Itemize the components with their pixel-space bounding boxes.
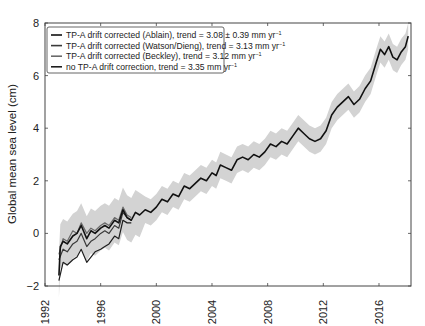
- sea-level-chart: 1992199620002004200820122016 −202468 Glo…: [0, 0, 425, 326]
- y-tick-label: 8: [33, 17, 39, 29]
- legend-entry: TP-A drift corrected (Beckley), trend = …: [66, 51, 262, 61]
- y-tick-label: 2: [33, 175, 39, 187]
- x-tick-label: 1992: [39, 300, 51, 324]
- y-tick-label: 4: [33, 122, 39, 134]
- x-tick-label: 2004: [206, 300, 218, 324]
- y-tick-label: 6: [33, 70, 39, 82]
- y-tick-label: −2: [26, 280, 39, 292]
- y-axis-label: Global mean sea level (cm): [6, 84, 18, 224]
- x-tick-label: 1996: [95, 300, 107, 324]
- x-tick-label: 2000: [150, 300, 162, 324]
- x-tick-label: 2016: [373, 300, 385, 324]
- y-tick-label: 0: [33, 227, 39, 239]
- x-tick-label: 2008: [262, 300, 274, 324]
- legend-entry: TP-A drift corrected (Watson/Dieng), tre…: [66, 41, 285, 51]
- legend-entry: no TP-A drift correction, trend = 3.35 m…: [66, 62, 237, 72]
- legend-entry: TP-A drift corrected (Ablain), trend = 3…: [66, 30, 282, 40]
- x-tick-label: 2012: [317, 300, 329, 324]
- legend: TP-A drift corrected (Ablain), trend = 3…: [47, 27, 285, 73]
